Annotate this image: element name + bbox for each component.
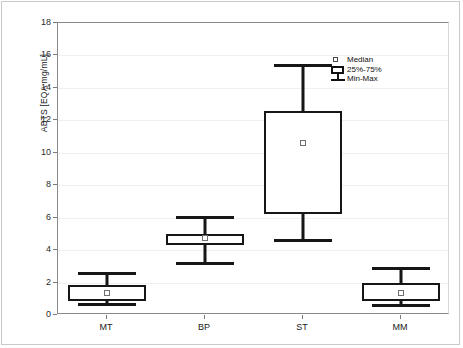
- box-plot-chart: ABTS [EQA mg/mL] 024681012141618 MTBPSTM…: [0, 0, 463, 348]
- x-tick-mark: [400, 315, 401, 319]
- y-tick-label: 12: [27, 114, 51, 124]
- y-tick-label: 10: [27, 147, 51, 157]
- y-tick-label: 18: [27, 17, 51, 27]
- box-plot-mm: [58, 23, 448, 313]
- x-tick-mark: [106, 315, 107, 319]
- y-tick-mark: [53, 54, 57, 55]
- x-tick-mark: [302, 315, 303, 319]
- y-tick-mark: [53, 282, 57, 283]
- max-cap: [372, 267, 430, 270]
- upper-whisker: [400, 268, 403, 283]
- y-tick-mark: [53, 119, 57, 120]
- y-tick-mark: [53, 217, 57, 218]
- y-tick-label: 2: [27, 277, 51, 287]
- x-tick-label-bp: BP: [174, 322, 234, 332]
- y-tick-mark: [53, 152, 57, 153]
- y-tick-label: 4: [27, 244, 51, 254]
- y-tick-mark: [53, 87, 57, 88]
- whisker-cap-icon: [331, 79, 345, 81]
- plot-area: [57, 22, 449, 314]
- legend-label-iqr: 25%-75%: [347, 65, 382, 75]
- legend-label-median: Median: [347, 55, 373, 65]
- y-tick-mark: [53, 249, 57, 250]
- legend-label-minmax: Min-Max: [347, 74, 378, 84]
- y-tick-label: 6: [27, 212, 51, 222]
- median-marker-icon: [333, 57, 338, 62]
- median-marker: [398, 290, 404, 296]
- y-tick-label: 0: [27, 309, 51, 319]
- min-cap: [372, 304, 430, 307]
- x-tick-label-mm: MM: [370, 322, 430, 332]
- y-tick-label: 16: [27, 49, 51, 59]
- y-tick-mark: [53, 184, 57, 185]
- x-tick-label-mt: MT: [76, 322, 136, 332]
- x-tick-mark: [204, 315, 205, 319]
- box-outline-icon: [331, 66, 344, 74]
- y-tick-label: 14: [27, 82, 51, 92]
- y-tick-label: 8: [27, 179, 51, 189]
- y-tick-mark: [53, 22, 57, 23]
- x-tick-label-st: ST: [272, 322, 332, 332]
- y-tick-mark: [53, 314, 57, 315]
